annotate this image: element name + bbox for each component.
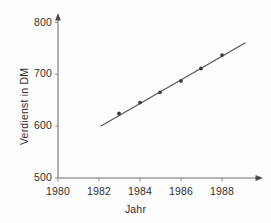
x-tick-label-1984: 1984 <box>120 185 160 197</box>
data-point <box>138 101 142 105</box>
x-tick-label-1986: 1986 <box>161 185 201 197</box>
data-point <box>117 112 121 116</box>
data-point <box>179 79 183 83</box>
x-axis-label: Jahr <box>0 203 271 215</box>
x-tick-label-1988: 1988 <box>202 185 242 197</box>
chart-figure: 800 700 600 500 1980 1982 1984 1986 1988… <box>0 0 271 223</box>
data-points <box>117 53 224 115</box>
y-axis <box>55 13 61 178</box>
x-tick-label-1980: 1980 <box>38 185 78 197</box>
data-point <box>158 90 162 94</box>
y-tick-label-500: 500 <box>22 171 52 183</box>
data-point <box>199 67 203 71</box>
x-tick-label-1982: 1982 <box>79 185 119 197</box>
y-tick-label-800: 800 <box>22 16 52 28</box>
x-axis <box>58 175 263 181</box>
y-axis-label: Verdienst in DM <box>18 68 30 145</box>
data-point <box>220 53 224 57</box>
